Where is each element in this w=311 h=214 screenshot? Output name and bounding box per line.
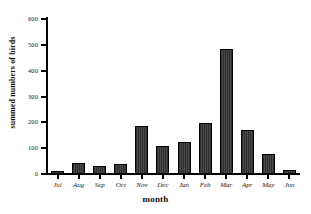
bar-apr <box>241 130 254 174</box>
y-tick-label: 500 <box>28 41 38 48</box>
y-tick-label: 400 <box>28 67 38 74</box>
x-tick-mark <box>288 174 290 179</box>
bar-mar <box>220 49 233 174</box>
x-tick-label-jun: Jun <box>269 181 309 190</box>
y-tick-label: 200 <box>28 118 38 125</box>
x-tick-mark <box>183 174 185 179</box>
y-axis-title: summed numbers of birds <box>8 13 17 153</box>
bar-dec <box>156 146 169 174</box>
x-tick-mark <box>57 174 59 179</box>
bars-layer <box>47 19 300 174</box>
y-tick-label: 0 <box>35 170 38 177</box>
bar-feb <box>199 123 212 174</box>
bar-jan <box>178 142 191 174</box>
y-tick-label: 600 <box>28 15 38 22</box>
x-tick-mark <box>99 174 101 179</box>
bar-chart: 0100200300400500600 JulAugSepOctNovDecJa… <box>0 0 311 214</box>
bar-aug <box>72 163 85 174</box>
bar-nov <box>135 126 148 174</box>
y-tick-label: 100 <box>28 144 38 151</box>
x-tick-mark <box>204 174 206 179</box>
x-tick-mark <box>225 174 227 179</box>
y-tick-label: 300 <box>28 93 38 100</box>
x-tick-mark <box>141 174 143 179</box>
x-tick-mark <box>120 174 122 179</box>
x-tick-mark <box>267 174 269 179</box>
bar-may <box>262 154 275 174</box>
x-tick-mark <box>162 174 164 179</box>
bar-oct <box>114 164 127 174</box>
bar-sep <box>93 166 106 174</box>
x-tick-mark <box>246 174 248 179</box>
x-axis-title: month <box>0 194 311 204</box>
x-tick-mark <box>78 174 80 179</box>
